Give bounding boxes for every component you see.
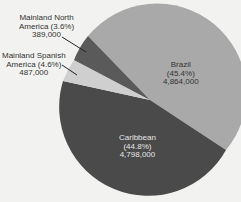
label-mainland-north-america: Mainland North America (3.6%) 389,000: [19, 14, 74, 40]
label-brazil: Brazil (45.4%) 4,864,000: [163, 61, 199, 87]
label-mainland-spanish-america: Mainland Spanish America (4.6%) 487,000: [2, 52, 66, 78]
label-caribbean: Caribbean (44.8%) 4,798,000: [119, 134, 156, 160]
pie-slices: [59, 4, 241, 196]
